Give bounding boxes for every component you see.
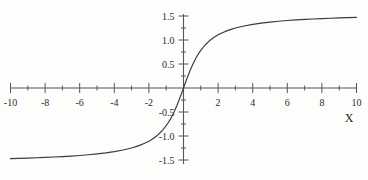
x-tick-label: 8 [319,97,324,108]
x-tick-label: 4 [250,97,255,108]
x-tick-label: -6 [76,97,84,108]
x-tick-label: -8 [41,97,49,108]
x-tick-label: 10 [352,97,362,108]
y-tick-label: 1.0 [162,35,175,46]
x-tick-label: 2 [216,97,221,108]
plot-svg: -10-8-6-4-2246810 -1.5-1.0-0.50.51.01.5 … [0,0,368,180]
y-tick-label: 0.5 [162,59,175,70]
y-tick-label: 1.5 [162,11,175,22]
x-axis-tick-labels: -10-8-6-4-2246810 [4,97,362,108]
x-tick-label: -10 [4,97,17,108]
x-tick-label: -2 [145,97,153,108]
x-tick-label: -4 [110,97,118,108]
x-tick-label: 6 [285,97,290,108]
y-tick-label: -1.5 [159,155,175,166]
x-axis-title: X [345,111,354,125]
arctan-plot: -10-8-6-4-2246810 -1.5-1.0-0.50.51.01.5 … [0,0,368,180]
